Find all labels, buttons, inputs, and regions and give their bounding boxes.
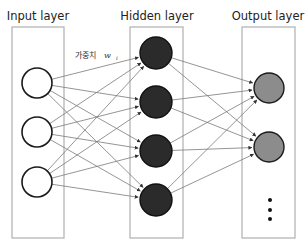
input-hidden-edge-2-1	[49, 112, 141, 174]
input-hidden-edge-1-2	[52, 134, 138, 148]
hidden-node	[140, 135, 172, 167]
input-hidden-edge-2-3	[52, 184, 138, 197]
hidden-output-edge-0-1	[168, 63, 256, 136]
hidden-output-edge-2-1	[172, 148, 252, 151]
weight-label-text: 가중치	[75, 51, 96, 60]
input-hidden-edge-0-1	[52, 85, 138, 99]
input-node	[22, 117, 52, 147]
hidden-output-edge-3-0	[167, 100, 257, 189]
output-layer-title: Output layer	[232, 9, 305, 23]
neural-network-diagram: Input layer Hidden layer Output layer 가중…	[0, 0, 308, 249]
output-node	[254, 132, 284, 162]
input-node	[22, 167, 52, 197]
input-hidden-edge-0-3	[48, 94, 143, 188]
input-layer-title: Input layer	[7, 9, 70, 23]
weight-subscript: i	[116, 55, 118, 61]
hidden-node	[140, 184, 172, 216]
nodes-group	[22, 37, 284, 221]
ellipsis-dot	[268, 198, 272, 202]
input-node	[22, 68, 52, 98]
hidden-node	[140, 37, 172, 69]
edges-group	[47, 57, 257, 197]
input-hidden-edge-1-0	[49, 63, 141, 124]
ellipsis-dot	[268, 208, 272, 212]
weight-symbol: w	[104, 51, 111, 60]
ellipsis-dot	[268, 217, 272, 221]
hidden-node	[140, 86, 172, 118]
output-node	[254, 73, 284, 103]
weight-label: 가중치 w i	[75, 43, 118, 62]
hidden-layer-title: Hidden layer	[120, 9, 194, 23]
hidden-output-edge-1-0	[172, 90, 252, 100]
input-hidden-edge-2-0	[47, 66, 144, 171]
